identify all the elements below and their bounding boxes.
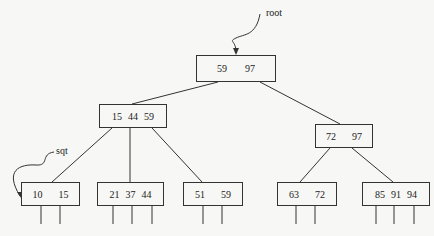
leaf-node-5: 85 91 94 xyxy=(362,182,430,206)
internal-node-right: 72 97 xyxy=(315,124,373,148)
sqt-label: sqt xyxy=(56,145,68,156)
key: 72 xyxy=(315,189,325,200)
key: 85 xyxy=(375,189,385,200)
key: 51 xyxy=(195,189,205,200)
root-node: 59 97 xyxy=(196,55,276,82)
key: 97 xyxy=(352,131,362,142)
key: 63 xyxy=(289,189,299,200)
key: 59 xyxy=(144,111,154,122)
key: 37 xyxy=(126,189,136,200)
key: 15 xyxy=(112,111,122,122)
key: 59 xyxy=(221,189,231,200)
key: 94 xyxy=(407,189,417,200)
key: 21 xyxy=(110,189,120,200)
key: 44 xyxy=(142,189,152,200)
root-label: root xyxy=(266,7,282,18)
key: 15 xyxy=(59,189,69,200)
leaf-node-4: 63 72 xyxy=(277,182,337,206)
key: 91 xyxy=(391,189,401,200)
key: 10 xyxy=(33,189,43,200)
leaf-node-2: 21 37 44 xyxy=(97,182,164,206)
key: 97 xyxy=(245,63,255,74)
key: 44 xyxy=(128,111,138,122)
leaf-node-3: 51 59 xyxy=(183,182,243,206)
key: 72 xyxy=(326,131,336,142)
leaf-node-1: 10 15 xyxy=(21,182,80,206)
internal-node-left: 15 44 59 xyxy=(99,104,167,128)
key: 59 xyxy=(217,63,227,74)
